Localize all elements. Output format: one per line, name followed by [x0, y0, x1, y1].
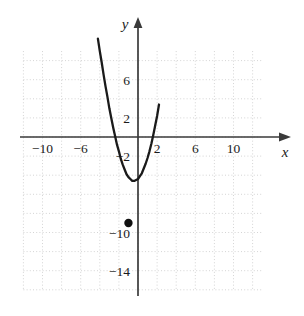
x-tick-label: 6 — [192, 141, 199, 156]
y-tick-label: −2 — [116, 149, 130, 164]
coordinate-plane: −10−6261062−2−10−14 x y — [0, 0, 304, 316]
x-tick-label: 2 — [154, 141, 161, 156]
x-tick-label: −6 — [74, 141, 89, 156]
figure-background — [0, 0, 304, 316]
x-tick-label: 10 — [227, 141, 241, 156]
graph-figure: −10−6261062−2−10−14 x y — [0, 0, 304, 316]
y-tick-label: −14 — [109, 264, 130, 279]
y-tick-label: −10 — [109, 226, 130, 241]
y-tick-label: 6 — [123, 73, 130, 88]
x-axis-label: x — [281, 144, 289, 160]
x-tick-label: −10 — [32, 141, 53, 156]
y-axis-label: y — [120, 16, 129, 32]
y-tick-label: 2 — [123, 111, 130, 126]
